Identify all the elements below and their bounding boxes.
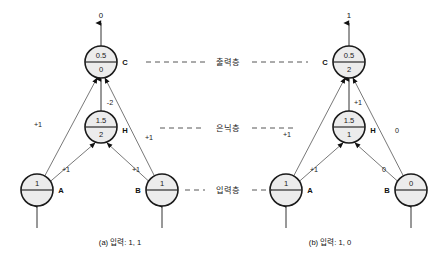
output-value-b: 1 [347, 11, 351, 20]
node-b-C-label: C [322, 58, 328, 67]
node-b-H-label: H [370, 126, 375, 135]
weight-a-H-to-C: -2 [107, 98, 113, 107]
node-b-C-threshold: 0.5 [344, 51, 355, 60]
node-b-B-label: B [384, 186, 390, 195]
node-a-B-threshold: 1 [160, 179, 164, 188]
weight-b-H-to-C: +1 [354, 98, 362, 107]
node-a-B: 1 [146, 174, 178, 206]
node-b-C: 0.5 2 [333, 46, 365, 78]
weight-a-A-to-H: +1 [62, 165, 70, 174]
output-value-a: 0 [99, 11, 104, 20]
weight-b-A-to-C: +1 [283, 130, 291, 139]
node-b-A-label: A [307, 186, 313, 195]
layer-label-hidden: 은닉층 [216, 124, 240, 133]
node-a-C-label: C [122, 58, 128, 67]
node-b-A: 1 [270, 174, 302, 206]
diagram-a: 0.5 0 C 1.5 2 H 1 A 1 B +1 +1 [21, 11, 178, 247]
weight-a-A-to-C: +1 [34, 120, 42, 129]
node-a-B-label: B [135, 186, 141, 195]
node-a-H-threshold: 1.5 [96, 116, 107, 125]
edge-b-A-to-H [294, 143, 343, 186]
neural-network-figure: 0.5 0 C 1.5 2 H 1 A 1 B +1 +1 [0, 0, 438, 264]
node-a-H-value: 2 [99, 130, 103, 139]
node-b-B: 0 [395, 174, 427, 206]
edge-a-B-to-H [107, 143, 154, 186]
weight-b-B-to-H: 0 [382, 165, 386, 174]
node-b-B-threshold: 0 [409, 179, 413, 188]
node-a-A-threshold: 1 [35, 179, 39, 188]
node-a-A-label: A [58, 186, 64, 195]
caption-b: (b) 입력: 1, 0 [309, 238, 351, 247]
weight-b-B-to-C: 0 [395, 126, 399, 135]
layer-label-output: 출력층 [216, 57, 240, 67]
node-b-C-value: 2 [347, 65, 351, 74]
node-a-C: 0.5 0 [85, 46, 117, 78]
node-a-C-threshold: 0.5 [96, 51, 107, 60]
node-b-H-value: 1 [347, 130, 351, 139]
node-a-A: 1 [21, 174, 53, 206]
layer-label-input: 입력층 [216, 185, 240, 195]
node-a-H-label: H [122, 126, 127, 135]
figure-canvas: 0.5 0 C 1.5 2 H 1 A 1 B +1 +1 [0, 0, 438, 264]
edge-b-B-to-H [355, 143, 403, 186]
weight-a-B-to-C: +1 [145, 133, 153, 142]
node-b-H: 1.5 1 [333, 111, 365, 143]
node-b-A-threshold: 1 [284, 179, 288, 188]
diagram-b: 0.5 2 C 1.5 1 H 1 A 0 B +1 0 [270, 11, 427, 247]
caption-a: (a) 입력: 1, 1 [99, 238, 141, 247]
node-b-H-threshold: 1.5 [344, 116, 355, 125]
weight-a-B-to-H: +1 [132, 165, 140, 174]
weight-b-A-to-H: +1 [310, 165, 318, 174]
node-a-H: 1.5 2 [85, 111, 117, 143]
node-a-C-value: 0 [99, 65, 103, 74]
